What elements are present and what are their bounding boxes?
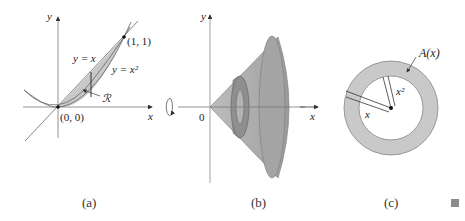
line-y-equals-x	[25, 21, 138, 141]
y-axis-label: y	[200, 10, 206, 22]
curve-label-y-equals-x-squared: y = x²	[111, 63, 139, 75]
y-axis-label: y	[46, 10, 52, 22]
caption-a: (a)	[82, 195, 96, 210]
area-label: A(x)	[418, 46, 440, 60]
point-1-1	[122, 35, 126, 39]
point-origin	[56, 105, 60, 109]
point-label-origin: (0, 0)	[60, 111, 84, 124]
caption-b: (b)	[251, 195, 266, 210]
panel-b: y 0 (b)	[166, 10, 305, 210]
x-axis-label: x	[147, 110, 153, 122]
region-label: ℛ	[102, 92, 112, 104]
panel-a: y x (1, 1) (0, 0) y = x y = x² ℛ (a)	[23, 10, 153, 210]
x-label: x	[309, 110, 315, 122]
panel-c: x A(x) x x² (c)	[300, 46, 459, 210]
rotation-arrow-icon	[166, 98, 170, 116]
point-label-1-1: (1, 1)	[127, 35, 151, 48]
inner-radius-label: x²	[395, 85, 405, 97]
origin-label: 0	[199, 111, 205, 123]
curve-label-y-equals-x: y = x	[72, 52, 96, 64]
end-marker	[451, 199, 459, 207]
outer-radius-label: x	[364, 108, 370, 120]
caption-c: (c)	[384, 195, 398, 210]
